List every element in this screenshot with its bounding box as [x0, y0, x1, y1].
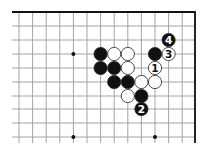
white-stone — [121, 61, 134, 74]
black-stone — [121, 75, 134, 88]
black-stone-icon — [135, 89, 148, 102]
grid-lines — [12, 12, 195, 143]
white-stone: 1 — [148, 61, 161, 74]
white-stone: 3 — [162, 47, 175, 60]
move-number-label: 1 — [151, 62, 158, 74]
star-point-icon — [153, 135, 157, 139]
white-stone-icon — [108, 47, 121, 60]
white-stone — [121, 47, 134, 60]
white-stone — [108, 47, 121, 60]
black-stone — [94, 47, 107, 60]
white-stone-icon — [121, 47, 134, 60]
black-stone — [108, 75, 121, 88]
black-stone: 2 — [135, 102, 148, 115]
black-stone-icon — [108, 61, 121, 74]
black-stone — [135, 89, 148, 102]
star-point-icon — [71, 52, 75, 56]
black-stone — [108, 61, 121, 74]
black-stone: 4 — [162, 33, 175, 46]
move-number-label: 4 — [165, 34, 172, 46]
white-stone-icon — [121, 61, 134, 74]
black-stone — [94, 61, 107, 74]
white-stone-icon — [135, 75, 148, 88]
white-stone-icon — [148, 75, 161, 88]
white-stone-icon — [121, 89, 134, 102]
black-stone-icon — [94, 47, 107, 60]
black-stone-icon — [148, 47, 161, 60]
stones: 3412 — [94, 33, 175, 115]
black-stone — [148, 47, 161, 60]
star-point-icon — [71, 135, 75, 139]
black-stone-icon — [108, 75, 121, 88]
white-stone — [121, 89, 134, 102]
black-stone-icon — [121, 75, 134, 88]
white-stone — [148, 75, 161, 88]
move-number-label: 2 — [138, 103, 145, 115]
go-board: 3412 — [0, 0, 203, 157]
black-stone-icon — [94, 61, 107, 74]
move-number-label: 3 — [165, 48, 172, 60]
white-stone — [135, 75, 148, 88]
